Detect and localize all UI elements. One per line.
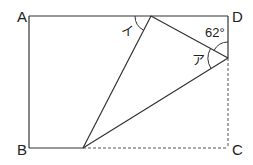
fold-line-bottom-to-right <box>83 58 228 148</box>
angle-arc-i <box>135 16 144 30</box>
angle-label-a: ア <box>192 52 205 67</box>
vertex-label-c: C <box>232 141 243 158</box>
angle-arc-62 <box>214 42 228 50</box>
angle-label-i: イ <box>121 23 134 38</box>
vertex-label-d: D <box>232 8 243 25</box>
diagram-canvas: A B C D イ 62° ア <box>0 0 253 165</box>
angle-arc-a <box>208 49 211 69</box>
fold-line-top-to-bottom <box>83 16 151 148</box>
angle-label-62: 62° <box>205 25 225 40</box>
vertex-label-a: A <box>17 8 27 25</box>
vertex-label-b: B <box>17 141 27 158</box>
